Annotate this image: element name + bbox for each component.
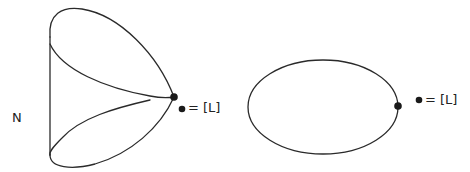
diagram-canvas [0,0,470,172]
legend-text-right: = [L] [425,92,457,107]
circle-ellipse [248,60,398,154]
legend-dot-left [179,106,186,113]
manifold-label-n: N [12,110,22,125]
point-l-right [394,102,402,110]
inner-upper-curve [50,44,174,98]
legend-text-left: = [L] [188,100,220,115]
point-l-left [170,93,178,101]
inner-lower-curve [50,100,150,155]
legend-dot-right [416,97,423,104]
outer-upper-curve [50,8,174,97]
